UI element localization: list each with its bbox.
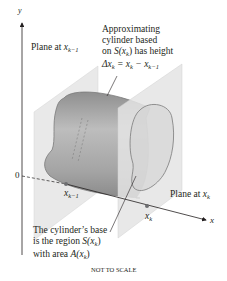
plane-left-label: Plane at xk−1 (31, 42, 78, 55)
point-x-k (145, 204, 149, 208)
point-x-k-minus-1 (64, 182, 68, 186)
cylinder-note: Approximating cylinder based on S(xk) ha… (102, 24, 173, 72)
plane-right-label: Plane at xk (170, 189, 210, 202)
not-to-scale-note: NOT TO SCALE (91, 266, 137, 273)
base-note: The cylinder’s base is the region S(xk) … (33, 225, 107, 262)
point-x-k-minus-1-label: xk−1 (64, 188, 79, 201)
leader-cylinder (107, 76, 117, 96)
y-axis-label: y (18, 5, 22, 16)
point-x-k-label: xk (145, 211, 152, 224)
origin-label: 0 (15, 170, 20, 181)
x-axis-label: x (210, 215, 214, 226)
